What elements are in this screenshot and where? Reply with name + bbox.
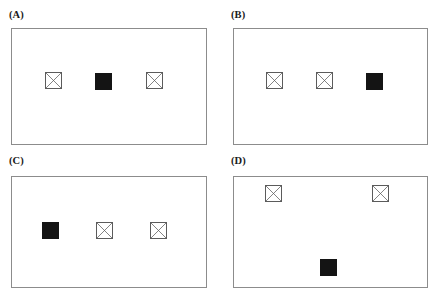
filled-square-d-3 xyxy=(320,259,337,276)
cross-square-a-1 xyxy=(45,72,62,89)
x-mark-icon xyxy=(266,186,281,201)
filled-square-c-1 xyxy=(42,222,59,239)
panel-d-label: (D) xyxy=(231,156,246,167)
x-mark-icon xyxy=(97,223,112,238)
x-mark-icon xyxy=(147,73,162,88)
filled-square-b-3 xyxy=(366,73,383,90)
panel-c-label: (C) xyxy=(9,156,24,167)
cross-square-c-2 xyxy=(96,222,113,239)
x-mark-icon xyxy=(373,186,388,201)
cross-square-a-3 xyxy=(146,72,163,89)
panel-a-label: (A) xyxy=(9,10,24,21)
cross-square-b-2 xyxy=(316,72,333,89)
panel-b-label: (B) xyxy=(231,10,245,21)
cross-square-d-2 xyxy=(372,185,389,202)
x-mark-icon xyxy=(317,73,332,88)
x-mark-icon xyxy=(267,73,282,88)
filled-square-a-2 xyxy=(95,73,112,90)
x-mark-icon xyxy=(46,73,61,88)
figure-container: (A)(B)(C)(D) xyxy=(0,0,441,293)
cross-square-d-1 xyxy=(265,185,282,202)
cross-square-b-1 xyxy=(266,72,283,89)
cross-square-c-3 xyxy=(150,222,167,239)
x-mark-icon xyxy=(151,223,166,238)
